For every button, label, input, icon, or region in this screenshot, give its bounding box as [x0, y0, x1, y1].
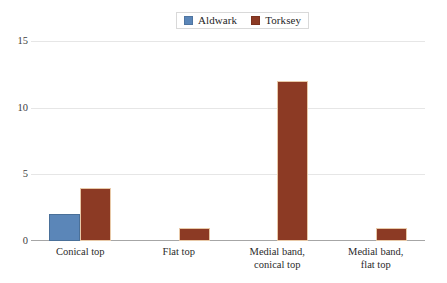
bar-chart: Aldwark Torksey 051015 Conical topFlat t… [0, 0, 447, 283]
legend-swatch-torksey [251, 16, 260, 25]
legend-item-torksey[interactable]: Torksey [251, 15, 301, 26]
x-tick-label: Medial band,conical top [228, 245, 327, 271]
plot-area [31, 41, 425, 241]
bar-torksey-2[interactable] [277, 81, 308, 241]
x-axis-labels: Conical topFlat topMedial band,conical t… [31, 245, 425, 271]
x-tick-label: Conical top [31, 245, 130, 271]
x-tick-label: Medial band,flat top [327, 245, 426, 271]
legend-label-aldwark: Aldwark [198, 15, 237, 26]
bar-torksey-0[interactable] [80, 188, 111, 241]
y-tick-label: 0 [2, 236, 28, 247]
bar-group [31, 41, 130, 241]
bar-torksey-1[interactable] [179, 228, 210, 241]
y-tick-label: 15 [2, 36, 28, 47]
legend-item-aldwark[interactable]: Aldwark [184, 15, 237, 26]
y-tick-label: 10 [2, 103, 28, 114]
bar-groups [31, 41, 425, 241]
bar-group [228, 41, 327, 241]
legend-label-torksey: Torksey [265, 15, 301, 26]
bar-group [130, 41, 229, 241]
chart-legend: Aldwark Torksey [176, 12, 309, 29]
bar-group [327, 41, 426, 241]
x-tick-label: Flat top [130, 245, 229, 271]
legend-swatch-aldwark [184, 16, 193, 25]
bar-torksey-3[interactable] [376, 228, 407, 241]
y-tick-label: 5 [2, 169, 28, 180]
bar-aldwark-0[interactable] [49, 214, 80, 241]
